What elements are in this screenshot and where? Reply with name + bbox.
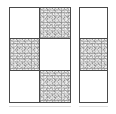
baseline-artifact-right (79, 106, 108, 107)
cell-r3c2 (40, 71, 70, 102)
cell-r3c1 (10, 71, 40, 102)
right-cell-r3c1 (80, 71, 107, 102)
right-cell-r1c1 (80, 8, 107, 39)
cell-r2c1 (10, 39, 40, 70)
cell-r1c1 (10, 8, 40, 39)
left-grid-panel (9, 7, 71, 103)
cell-r1c2 (40, 8, 70, 39)
right-column-panel (79, 7, 108, 103)
baseline-artifact-left (9, 106, 71, 107)
cell-r2c2 (40, 39, 70, 70)
right-cell-r2c1 (80, 39, 107, 70)
figure-canvas (0, 0, 116, 114)
